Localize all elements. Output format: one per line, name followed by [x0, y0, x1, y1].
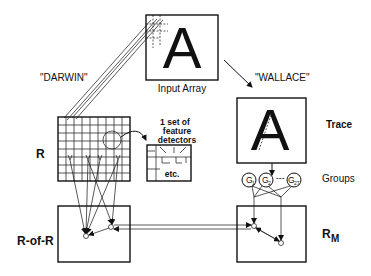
r-of-r-node-2	[109, 225, 114, 230]
r-label: R	[36, 147, 45, 161]
feature-detector-inset: 1 set of feature detectors etc.	[147, 117, 196, 181]
svg-text:27: 27	[294, 180, 300, 186]
r-grid	[58, 117, 130, 181]
groups: G 1 G 2 --- G 27	[242, 173, 301, 197]
darwin-connection	[64, 19, 163, 120]
r-of-r	[58, 206, 130, 262]
r-detector-marks	[68, 155, 120, 160]
r-m-box	[237, 206, 306, 262]
svg-text:2: 2	[268, 180, 271, 186]
wallace-arrow	[224, 60, 252, 87]
group-g2: G 2	[259, 173, 273, 187]
darwin-wallace-diagram: A Input Array "DARWIN" "WALLACE" R 1 set…	[0, 0, 371, 276]
r-of-r-label: R-of-R	[17, 234, 54, 248]
r-m-node-2	[279, 241, 284, 246]
feature-detectors-text-3: detectors	[158, 135, 197, 145]
r-to-r-of-r-connections	[70, 160, 118, 233]
r-m-node-1	[252, 224, 257, 229]
group-connections	[252, 186, 292, 197]
svg-text:1: 1	[252, 180, 255, 186]
group-g1: G 1	[242, 173, 256, 187]
groups-ellipsis: ---	[276, 173, 285, 183]
input-letter: A	[163, 15, 202, 80]
input-array-label: Input Array	[158, 83, 206, 94]
trace: A	[237, 97, 306, 163]
trace-label: Trace	[326, 119, 353, 130]
r-of-r-to-r-m-connection	[114, 225, 251, 229]
r-m-label-main: R	[322, 227, 331, 241]
r-m	[237, 197, 306, 262]
groups-label: Groups	[322, 173, 355, 184]
feature-detector-arrow	[121, 131, 146, 140]
etc-label: etc.	[165, 169, 180, 179]
group-g27: G 27	[287, 173, 301, 187]
darwin-label: "DARWIN"	[40, 72, 88, 83]
r-m-label-sub: M	[331, 233, 339, 244]
r-of-r-node-1	[84, 234, 89, 239]
trace-letter: A	[251, 97, 290, 162]
r-of-r-box	[58, 206, 130, 262]
wallace-label: "WALLACE"	[255, 72, 310, 83]
